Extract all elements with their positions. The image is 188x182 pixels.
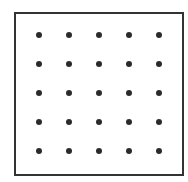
grid-dot <box>36 119 42 125</box>
grid-dot <box>126 90 132 96</box>
grid-dot <box>66 90 72 96</box>
grid-dot <box>96 148 102 154</box>
grid-dot <box>96 90 102 96</box>
grid-dot <box>156 61 162 67</box>
grid-dot <box>126 119 132 125</box>
grid-dot <box>36 61 42 67</box>
grid-dot <box>36 32 42 38</box>
grid-dot <box>66 32 72 38</box>
grid-dot <box>96 61 102 67</box>
grid-dot <box>156 32 162 38</box>
grid-dot <box>66 61 72 67</box>
grid-dot <box>156 90 162 96</box>
grid-dot <box>96 32 102 38</box>
grid-dot <box>66 119 72 125</box>
grid-dot <box>126 148 132 154</box>
grid-dot <box>126 61 132 67</box>
grid-dot <box>156 119 162 125</box>
grid-dot <box>36 90 42 96</box>
grid-dot <box>156 148 162 154</box>
grid-dot <box>36 148 42 154</box>
grid-dot <box>96 119 102 125</box>
grid-dot <box>66 148 72 154</box>
grid-dot <box>126 32 132 38</box>
dot-grid-diagram <box>0 0 188 182</box>
